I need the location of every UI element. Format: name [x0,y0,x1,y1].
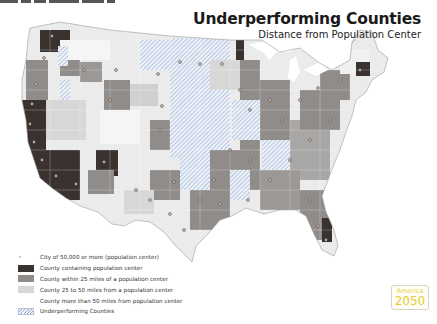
legend-item-population-center-county: County containing population center [18,263,182,274]
legend-label: County 25 to 50 miles from a population … [40,287,173,293]
legend-label: County more than 50 miles from populatio… [40,298,182,304]
legend-label: County containing population center [40,265,142,271]
legend-item-underperforming: Underperforming Counties [18,306,182,317]
legend-item-within-25-miles: County within 25 miles of a population c… [18,274,182,285]
legend-label: City of 50,000 or more (population cente… [40,254,159,260]
map-subtitle: Distance from Population Center [193,28,421,41]
white-swatch-icon [18,297,34,304]
legend-label: County within 25 miles of a population c… [40,276,168,282]
legend-item-city: City of 50,000 or more (population cente… [18,252,182,263]
medium-gray-swatch-icon [18,275,34,282]
logo-line-2: 2050 [392,295,428,307]
legend-item-beyond-50-miles: County more than 50 miles from populatio… [18,295,182,306]
legend-item-25-to-50-miles: County 25 to 50 miles from a population … [18,284,182,295]
america-2050-logo: America 2050 [391,285,429,310]
light-gray-swatch-icon [18,286,34,293]
map-title: Underperforming Counties [193,10,421,28]
legend-label: Underperforming Counties [40,308,114,314]
map-title-block: Underperforming Counties Distance from P… [193,10,421,41]
city-dot-icon [18,254,34,261]
dark-swatch-icon [18,265,34,272]
hatch-swatch-icon [18,308,34,315]
map-legend: City of 50,000 or more (population cente… [18,252,182,317]
